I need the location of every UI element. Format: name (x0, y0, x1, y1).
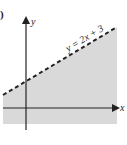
y-axis-label: y (30, 16, 36, 27)
part-label: ) (0, 8, 4, 21)
inequality-graph: y x y = 2x + 3 ) (0, 0, 127, 145)
shaded-region (3, 27, 117, 124)
x-axis-label: x (119, 102, 125, 113)
